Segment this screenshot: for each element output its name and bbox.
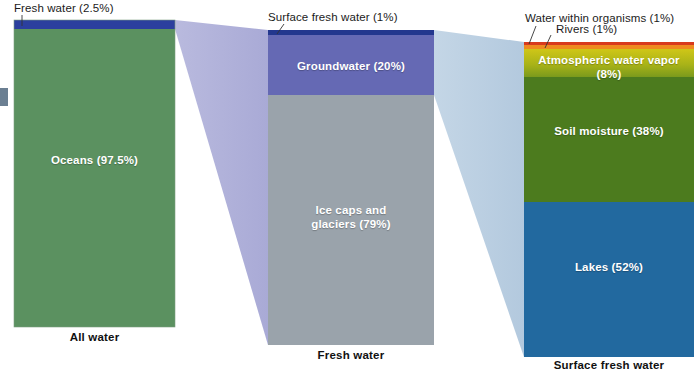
segment-label-soil-moisture: Soil moisture (38%)	[524, 124, 694, 138]
segment-label-atmospheric-line1: Atmospheric water vapor	[538, 54, 680, 66]
segment-label-atmospheric-line2: (8%)	[597, 68, 622, 80]
segment-oceans	[14, 29, 175, 327]
segment-label-ice-caps-glaciers: Ice caps and glaciers (79%)	[268, 203, 434, 231]
segment-soil-moisture	[524, 77, 694, 202]
segment-label-groundwater: Groundwater (20%)	[268, 59, 434, 73]
callout-fresh-water-label: Fresh water (2.5%)	[14, 2, 114, 15]
segment-label-atmospheric-water-vapor: Atmospheric water vapor (8%)	[524, 53, 694, 81]
segment-label-ice-caps-line1: Ice caps and	[316, 204, 387, 216]
segment-label-lakes: Lakes (52%)	[524, 260, 694, 274]
segment-fresh-water	[14, 20, 175, 29]
column-surface-fresh-water	[524, 42, 694, 357]
column-fresh-water	[268, 30, 434, 345]
caption-fresh-water: Fresh water	[268, 349, 434, 361]
column-all-water	[14, 20, 175, 327]
segment-label-oceans: Oceans (97.5%)	[14, 153, 175, 167]
segment-rivers	[524, 45, 694, 49]
segment-water-within-organisms	[524, 42, 694, 45]
water-distribution-diagram: Fresh water (2.5%) Surface fresh water (…	[0, 0, 694, 371]
segment-surface-fresh-water	[268, 30, 434, 35]
caption-all-water: All water	[14, 331, 175, 343]
scan-edge-artifact	[0, 88, 8, 106]
callout-rivers-label: Rivers (1%)	[556, 23, 617, 36]
segment-label-ice-caps-line2: glaciers (79%)	[311, 218, 390, 230]
caption-surface-fresh-water: Surface fresh water	[524, 359, 694, 371]
callout-surface-fresh-water-label: Surface fresh water (1%)	[268, 11, 398, 24]
segment-lakes	[524, 202, 694, 357]
